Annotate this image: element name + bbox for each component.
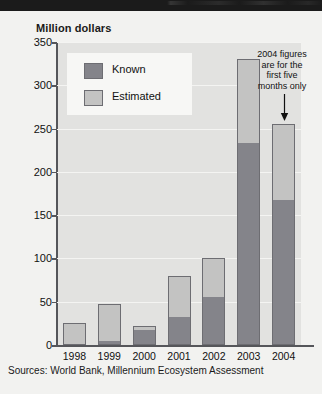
- annotation-line-1: 2004 figures: [245, 49, 319, 60]
- bar-2002: [202, 42, 225, 345]
- y-axis-tick-mark: [52, 85, 57, 87]
- bar-segment-known-2003: [237, 143, 260, 345]
- y-axis-tick-label: 150: [4, 209, 52, 221]
- legend-swatch-estimated-icon: [84, 90, 103, 106]
- bar-segment-known-2001: [168, 317, 191, 345]
- y-axis-tick-mark: [52, 172, 57, 174]
- y-axis-tick-mark: [52, 129, 57, 131]
- y-axis-tick-mark: [52, 345, 57, 347]
- bar-segment-known-1999: [98, 341, 121, 345]
- bar-segment-estimated-1999: [98, 304, 121, 340]
- y-axis-tick-label: 50: [4, 296, 52, 308]
- x-axis-line: [56, 345, 314, 347]
- bar-segment-known-2000: [133, 330, 156, 345]
- y-axis-tick-label: 200: [4, 166, 52, 178]
- x-axis-label-2004: 2004: [264, 350, 304, 362]
- annotation-line-4: months only: [245, 81, 319, 92]
- down-arrow-icon: [280, 94, 289, 122]
- bar-segment-known-2004: [272, 200, 295, 345]
- y-axis-tick-label: 100: [4, 252, 52, 264]
- y-axis-tick-mark: [52, 42, 57, 44]
- chart-legend: Known Estimated: [67, 53, 192, 115]
- scan-edge-speckle: [150, 1, 322, 5]
- y-axis-line: [56, 42, 58, 346]
- y-axis-tick-mark: [52, 215, 57, 217]
- y-axis-tick-label: 350: [4, 36, 52, 48]
- legend-swatch-known-icon: [84, 63, 103, 79]
- source-note: Sources: World Bank, Millennium Ecosyste…: [8, 365, 263, 376]
- bar-segment-estimated-2004: [272, 124, 295, 199]
- annotation-line-2: are for the: [245, 60, 319, 71]
- bar-segment-estimated-2001: [168, 276, 191, 318]
- y-axis-tick-label: 0: [4, 339, 52, 351]
- y-axis-labels: 050100150200250300350: [0, 0, 52, 394]
- bar-segment-estimated-1998: [63, 323, 86, 345]
- bar-segment-estimated-2000: [133, 326, 156, 330]
- annotation-line-3: first five: [245, 70, 319, 81]
- chart-figure: Million dollars 050100150200250300350 19…: [0, 0, 322, 394]
- y-axis-tick-label: 300: [4, 79, 52, 91]
- y-axis-tick-mark: [52, 302, 57, 304]
- y-axis-tick-label: 250: [4, 123, 52, 135]
- legend-label-known: Known: [112, 63, 146, 75]
- bar-segment-estimated-2002: [202, 258, 225, 296]
- y-axis-tick-mark: [52, 258, 57, 260]
- bar-segment-known-2002: [202, 297, 225, 345]
- annotation-2004-note: 2004 figures are for the first five mont…: [245, 49, 319, 91]
- legend-label-estimated: Estimated: [112, 90, 161, 102]
